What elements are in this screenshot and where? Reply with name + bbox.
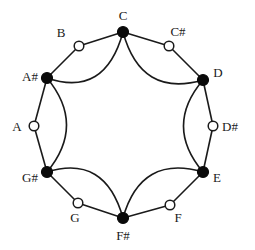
- filled-node-gs: [42, 167, 53, 178]
- label-g: G: [70, 210, 79, 225]
- outer-edges: [34, 32, 213, 218]
- edge-ds-e: [203, 126, 213, 172]
- open-node-ds: [208, 121, 218, 131]
- open-node-a: [29, 121, 39, 131]
- edge-d-ds: [203, 80, 213, 126]
- arc-c-d: [123, 32, 203, 84]
- edge-g-gs: [47, 172, 78, 203]
- edge-gs-a: [34, 126, 47, 172]
- pitch-nodes: [29, 27, 218, 224]
- label-b: B: [57, 25, 66, 40]
- label-e: E: [213, 170, 221, 185]
- inner-whole-tone-arcs: [47, 32, 203, 218]
- edge-fs-g: [78, 203, 123, 218]
- edge-b-c: [79, 32, 123, 46]
- edge-a-as: [34, 78, 47, 126]
- edge-c-cs: [123, 32, 169, 46]
- edge-f-fs: [123, 205, 170, 218]
- open-node-b: [74, 41, 84, 51]
- filled-node-d: [198, 75, 209, 86]
- label-cs: C#: [170, 24, 186, 39]
- open-node-g: [73, 198, 83, 208]
- pitch-labels: CC#DD#EFF#GG#AA#B: [12, 8, 238, 243]
- arc-e-fs: [123, 168, 203, 218]
- label-gs: G#: [22, 170, 38, 185]
- label-as: A#: [22, 69, 38, 84]
- edge-as-b: [47, 46, 79, 78]
- label-d: D: [213, 65, 222, 80]
- arc-d-e: [184, 80, 204, 172]
- arc-fs-gs: [47, 168, 123, 218]
- label-c: C: [119, 8, 128, 23]
- open-node-cs: [164, 41, 174, 51]
- filled-node-as: [42, 73, 53, 84]
- label-ds: D#: [222, 119, 238, 134]
- filled-node-c: [118, 27, 129, 38]
- pitch-class-circle-diagram: CC#DD#EFF#GG#AA#B: [0, 0, 255, 250]
- label-a: A: [12, 119, 22, 134]
- label-fs: F#: [116, 228, 130, 243]
- label-f: F: [174, 210, 181, 225]
- edge-e-f: [170, 172, 203, 205]
- edge-cs-d: [169, 46, 203, 80]
- filled-node-fs: [118, 213, 129, 224]
- open-node-f: [165, 200, 175, 210]
- filled-node-e: [198, 167, 209, 178]
- arc-gs-as: [47, 78, 67, 172]
